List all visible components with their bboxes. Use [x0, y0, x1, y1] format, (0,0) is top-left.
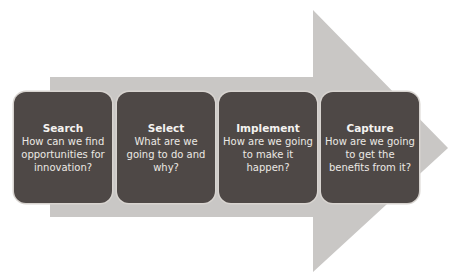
step-title: Select	[148, 122, 185, 135]
step-title: Capture	[346, 122, 393, 135]
step-implement: Implement How are we going to make it ha…	[219, 92, 317, 203]
step-description: How are we going to make it happen?	[222, 135, 314, 174]
step-title: Implement	[236, 122, 300, 135]
step-search: Search How can we find opportunities for…	[14, 92, 112, 203]
step-description: How can we find opportunities for innova…	[17, 135, 109, 174]
step-select: Select What are we going to do and why?	[117, 92, 215, 203]
step-description: How are we going to get the benefits fro…	[324, 135, 416, 174]
step-capture: Capture How are we going to get the bene…	[321, 92, 419, 203]
step-description: What are we going to do and why?	[120, 135, 212, 174]
step-title: Search	[43, 122, 84, 135]
